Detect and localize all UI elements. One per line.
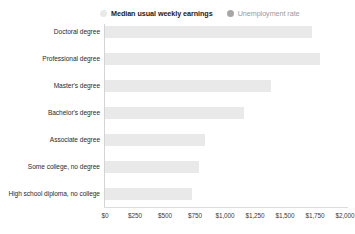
x-axis-tick-label: $1,500 <box>275 212 294 220</box>
x-axis-labels: $0 $250 $500 $750 $1,000 $1,250 $1,500 $… <box>104 212 348 224</box>
bar-row[interactable] <box>105 188 192 200</box>
bar-associate-degree[interactable] <box>105 134 205 146</box>
y-axis-tick-label: Professional degree <box>0 55 100 63</box>
y-axis-tick-label: Some college, no degree <box>0 163 100 171</box>
legend-item-unemployment-rate[interactable]: Unemployment rate <box>227 9 300 18</box>
y-axis-tick-label: Bachelor's degree <box>0 109 100 117</box>
y-axis-tick-label: High school diploma, no college <box>0 190 100 198</box>
bar-row[interactable] <box>105 80 271 92</box>
y-axis-tick-label: Doctoral degree <box>0 28 100 36</box>
bar-row[interactable] <box>105 26 312 38</box>
x-axis-tick-label: $500 <box>158 212 172 220</box>
x-axis-tick-label: $0 <box>101 212 108 220</box>
bar-row[interactable] <box>105 161 199 173</box>
bar-row[interactable] <box>105 107 244 119</box>
circle-icon <box>227 10 234 17</box>
x-axis-line <box>104 207 348 208</box>
chart-legend: Median usual weekly earnings Unemploymen… <box>100 5 300 21</box>
plot-area <box>104 24 348 208</box>
legend-item-median-usual-weekly-earnings[interactable]: Median usual weekly earnings <box>100 9 213 18</box>
bar-bachelors-degree[interactable] <box>105 107 244 119</box>
y-axis-tick-label: Associate degree <box>0 136 100 144</box>
circle-icon <box>100 10 107 17</box>
x-axis-tick-label: $250 <box>128 212 142 220</box>
x-axis-tick-label: $1,000 <box>215 212 234 220</box>
y-axis-labels: Doctoral degree Professional degree Mast… <box>0 24 100 208</box>
x-axis-tick-label: $1,750 <box>305 212 324 220</box>
bar-doctoral-degree[interactable] <box>105 26 312 38</box>
bar-row[interactable] <box>105 53 320 65</box>
bar-masters-degree[interactable] <box>105 80 271 92</box>
bar-high-school-diploma-no-college[interactable] <box>105 188 192 200</box>
x-axis-tick-label: $2,000 <box>335 212 354 220</box>
x-axis-tick-label: $1,250 <box>245 212 264 220</box>
y-axis-tick-label: Master's degree <box>0 82 100 90</box>
legend-label: Median usual weekly earnings <box>111 9 213 18</box>
bar-some-college-no-degree[interactable] <box>105 161 199 173</box>
chart-container: Median usual weekly earnings Unemploymen… <box>0 0 355 234</box>
x-axis-tick-label: $750 <box>188 212 202 220</box>
bar-row[interactable] <box>105 134 205 146</box>
bar-professional-degree[interactable] <box>105 53 320 65</box>
legend-label: Unemployment rate <box>238 9 300 18</box>
